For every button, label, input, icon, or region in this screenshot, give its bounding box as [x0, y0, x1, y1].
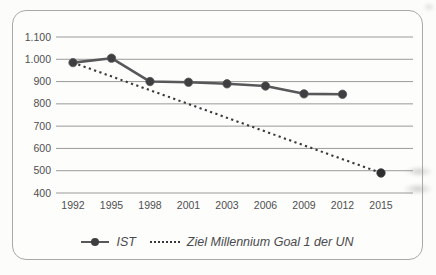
line-chart: 1.1001.000900800700600500400199219951998… [13, 11, 424, 261]
dotted-line [73, 63, 381, 173]
x-tick-label: 1995 [100, 199, 124, 211]
chart-legend: IST Ziel Millennium Goal 1 der UN [13, 235, 422, 249]
data-point-marker [261, 82, 269, 90]
x-tick-label: 2003 [215, 199, 239, 211]
y-tick-label: 800 [33, 97, 51, 109]
x-tick-label: 2015 [369, 199, 393, 211]
y-tick-label: 1.000 [25, 53, 51, 65]
data-point-marker [300, 90, 308, 98]
legend-item-ziel: Ziel Millennium Goal 1 der UN [150, 235, 354, 249]
legend-label-ziel: Ziel Millennium Goal 1 der UN [187, 235, 354, 249]
solid-line [73, 58, 343, 94]
scan-artifact [405, 166, 433, 177]
scan-artifact [403, 183, 433, 195]
data-point-marker [107, 54, 115, 62]
chart-frame: 1.1001.000900800700600500400199219951998… [12, 10, 423, 260]
data-point-marker [338, 90, 346, 98]
y-tick-label: 1.100 [25, 31, 51, 43]
y-tick-label: 600 [33, 142, 51, 154]
y-tick-label: 900 [33, 75, 51, 87]
x-tick-label: 2006 [254, 199, 278, 211]
y-tick-label: 500 [33, 164, 51, 176]
data-point-marker [377, 169, 385, 177]
x-axis-labels: 199219951998200120032006200920122015 [61, 199, 393, 211]
data-point-marker [223, 80, 231, 88]
y-axis-labels: 1.1001.000900800700600500400 [25, 31, 51, 199]
x-tick-label: 2012 [331, 199, 355, 211]
legend-label-ist: IST [116, 235, 135, 249]
scan-artifact [423, 2, 435, 12]
solid-line-swatch [81, 241, 109, 243]
data-point-marker [146, 77, 154, 85]
x-tick-label: 2001 [177, 199, 201, 211]
y-tick-label: 400 [33, 187, 51, 199]
legend-item-ist: IST [81, 235, 135, 249]
data-point-marker [184, 78, 192, 86]
y-tick-label: 700 [33, 120, 51, 132]
x-tick-label: 2009 [292, 199, 316, 211]
circle-marker-icon [91, 238, 99, 246]
x-tick-label: 1992 [61, 199, 85, 211]
dotted-line-swatch [150, 241, 180, 243]
x-tick-label: 1998 [138, 199, 162, 211]
